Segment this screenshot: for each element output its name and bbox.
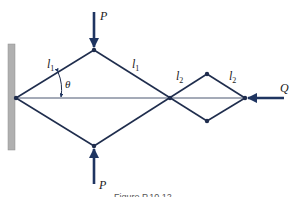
label-p-bottom: P xyxy=(98,178,107,192)
label-p-top: P xyxy=(99,9,108,23)
label-l1-right: l1 xyxy=(132,57,139,73)
joint-small-top xyxy=(205,72,209,76)
joint-top xyxy=(92,48,96,52)
member-l2-upper-right xyxy=(207,74,245,98)
member-l1-upper-left xyxy=(16,50,94,98)
joint-small-bottom xyxy=(205,119,209,123)
joint-cross xyxy=(168,96,172,100)
joint-support xyxy=(14,96,18,100)
member-l1-lower-left xyxy=(16,98,94,146)
truss-diagram: P P Q l1 l1 l2 l2 θ Figure P.10.12 xyxy=(0,0,300,197)
theta-angle-arc xyxy=(58,72,62,97)
fixed-wall xyxy=(8,44,15,150)
joint-right xyxy=(243,96,247,100)
label-l2-right: l2 xyxy=(229,69,236,85)
figure-caption: Figure P.10.12 xyxy=(114,192,172,197)
joint-bottom xyxy=(92,144,96,148)
label-l2-left: l2 xyxy=(176,69,183,85)
label-theta: θ xyxy=(65,78,71,90)
label-q: Q xyxy=(280,81,289,95)
member-l2-lower-right xyxy=(207,98,245,121)
label-l1-left: l1 xyxy=(47,57,54,73)
